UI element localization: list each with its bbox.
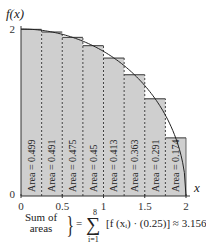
bar-label-4: Area = 0.45 [88,144,99,192]
sum-of-areas-formula: Sum of areas } = ∑ 8 i=1 [f (xᵢ) · (0.25… [20,212,206,250]
y-tick-label: 2 [10,23,16,35]
brace-icon: } [66,212,73,238]
x-tick-label: 0 [18,200,24,210]
sum-label: Sum of areas [20,212,62,234]
bar-label-1: Area = 0.499 [26,139,37,192]
bar-label-3: Area = 0.475 [67,139,78,192]
bar-label-5: Area = 0.413 [108,139,119,192]
sum-label-line2: areas [20,223,62,234]
bar-label-7: Area = 0.291 [150,139,161,192]
x-tick-label: 1.5 [138,200,152,210]
sum-upper-limit: 8 [93,208,97,217]
y-axis-label: f(x) [6,6,24,21]
equals-sign: = [76,217,82,229]
riemann-sum-chart: Area = 0.499Area = 0.491Area = 0.475Area… [0,0,206,210]
x-axis-label: x [193,180,200,195]
bar-label-8: Area = 0.174 [170,139,181,192]
sum-expression: [f (xᵢ) · (0.25)] ≈ 3.156 [106,217,206,229]
bar-label-2: Area = 0.491 [46,139,57,192]
x-tick-label: 0.5 [55,200,69,210]
x-tick-label: 2 [183,200,189,210]
sum-lower-limit: i=1 [88,235,99,244]
bar-label-6: Area = 0.363 [129,139,140,192]
sigma-icon: ∑ [86,214,100,234]
y-tick-label: 0 [10,188,16,200]
x-tick-label: 1 [101,200,107,210]
